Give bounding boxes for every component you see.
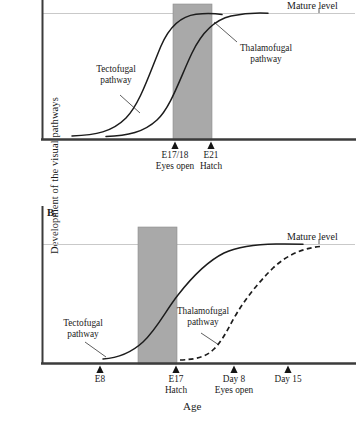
- panel-b-annotation-tectofugal-line2: pathway: [52, 329, 114, 340]
- panel-b-tick-label-e17-line1: E17: [154, 374, 198, 385]
- panel-b-tick-label-e8: E8: [80, 374, 120, 385]
- panel-b-tick-label-e8-line1: E8: [80, 374, 120, 385]
- panel-a-leader-thalamofugal: [214, 22, 237, 42]
- panel-b-tick-arrow-day15: [284, 366, 291, 374]
- panel-a-annotation-thalamofugal-line1: Thalamofugal: [228, 43, 304, 54]
- panel-a-annotation-tectofugal: Tectofugal pathway: [82, 64, 150, 85]
- panel-b-tick-label-day8-line2: Eyes open: [206, 385, 262, 396]
- panel-b-tick-label-day8-line1: Day 8: [206, 374, 262, 385]
- panel-a-tick-label-e21-line2: Hatch: [190, 161, 232, 172]
- panel-a-shaded-period: [173, 4, 212, 140]
- panel-b-tick-label-e17-line2: Hatch: [154, 385, 198, 396]
- panel-b-curve-tectofugal: [103, 244, 303, 359]
- panel-b-mature-level-label: Mature level: [287, 231, 338, 242]
- panel-a-mature-level-label: Mature level: [287, 0, 338, 11]
- figure-visual-pathways: Development of the visual pathways: [0, 0, 360, 424]
- panel-b-tick-label-e17: E17 Hatch: [154, 374, 198, 395]
- panel-b-annotation-tectofugal-line1: Tectofugal: [52, 318, 114, 329]
- panel-b-shaded-period: [138, 227, 177, 364]
- panel-a-annotation-tectofugal-line2: pathway: [82, 75, 150, 86]
- x-axis-label: Age: [183, 400, 201, 412]
- panel-b-tick-arrow-e8: [96, 366, 103, 374]
- panel-a-annotation-thalamofugal: Thalamofugal pathway: [228, 43, 304, 64]
- panel-b-tick-arrow-e17: [172, 366, 179, 374]
- panel-b-tick-label-day8: Day 8 Eyes open: [206, 374, 262, 395]
- panel-b-tick-label-day15-line1: Day 15: [264, 374, 312, 385]
- panel-a-leader-tectofugal: [120, 95, 140, 113]
- panel-b-annotation-thalamofugal: Thalamofugal pathway: [166, 306, 240, 327]
- panel-b-annotation-thalamofugal-line2: pathway: [166, 317, 240, 328]
- panel-a-tick-arrow-e21: [207, 142, 214, 150]
- panel-a-tick-arrow-e1718: [171, 142, 178, 150]
- panel-a-annotation-tectofugal-line1: Tectofugal: [82, 64, 150, 75]
- panel-b-leader-tectofugal: [85, 342, 106, 357]
- panel-b-curve-thalamofugal: [180, 247, 320, 361]
- panel-a-tick-label-e21: E21 Hatch: [190, 150, 232, 171]
- panel-a-tick-label-e21-line1: E21: [190, 150, 232, 161]
- panel-b-leader-thalamofugal: [201, 333, 219, 345]
- panel-b-tick-arrow-day8: [230, 366, 237, 374]
- panel-a-annotation-thalamofugal-line2: pathway: [228, 54, 304, 65]
- panel-b-tick-label-day15: Day 15: [264, 374, 312, 385]
- panel-b-annotation-thalamofugal-line1: Thalamofugal: [166, 306, 240, 317]
- panel-b-annotation-tectofugal: Tectofugal pathway: [52, 318, 114, 339]
- panel-b-identifier: B.: [47, 207, 57, 218]
